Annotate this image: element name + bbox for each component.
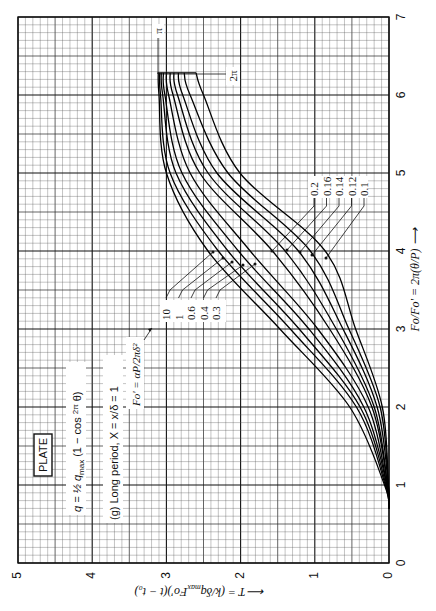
case-text: (g) Long period, X = x/δ = 1 — [108, 386, 120, 520]
curve-family — [157, 73, 389, 509]
legend-label: 0.12 — [346, 177, 358, 196]
fo-tick-label: 5 — [394, 169, 408, 176]
curve-0.4 — [163, 73, 389, 509]
legend-label: 10 — [160, 309, 172, 321]
curve-0.14 — [178, 73, 389, 509]
x-axis-label: Fo/Fo' = 2π(θ/P) ⟶ — [408, 227, 422, 332]
formula-end: θ) — [71, 392, 83, 405]
y-axis-label-main: ⟵ T = (k/δq — [201, 585, 266, 599]
t-tick-label: 3 — [159, 572, 173, 579]
y-axis-label: ⟵ T = (k/δqmaxFo')(t − t₀) — [135, 583, 266, 599]
pi-label: π — [152, 28, 164, 34]
y-axis-label-rest: Fo')(t − t₀) — [135, 585, 189, 599]
plate-title-box: PLATE — [34, 434, 52, 476]
t-tick-label: 0 — [381, 572, 395, 579]
t-tick-label: 5 — [10, 572, 24, 579]
formula-frac: 2π — [71, 404, 80, 414]
legend-label: 0.16 — [321, 176, 333, 196]
t-axis-ticks: 012345 — [10, 572, 395, 579]
rotated-chart: π 2π PLATE q = ½ qmax (1 − cos 2π θ) (g)… — [0, 0, 436, 611]
legend-label: 0.6 — [185, 306, 197, 320]
fo-tick-label: 3 — [394, 325, 408, 332]
formula-rest: (1 − cos — [71, 414, 83, 460]
formula-sub: max — [77, 460, 86, 475]
formula-lhs: q = ½ q — [71, 474, 83, 512]
fo-tick-label: 4 — [394, 247, 408, 254]
legend-label: 0.3 — [210, 306, 222, 320]
curve-0.16 — [174, 73, 389, 509]
plate-title: PLATE — [37, 438, 49, 472]
curve-0.12 — [184, 73, 389, 509]
y-axis-label-sub: max — [187, 583, 201, 592]
case-label: (g) Long period, X = x/δ = 1 — [103, 355, 123, 523]
t-tick-label: 4 — [84, 572, 98, 579]
pi-marker: π — [152, 24, 164, 74]
legend-label: 0.2 — [308, 182, 320, 196]
legend-label: 1 — [173, 315, 185, 321]
legend-label: 0.4 — [198, 306, 210, 320]
two-pi-label: 2π — [227, 70, 239, 82]
legend-group-a: 1010.60.40.3 — [160, 300, 226, 322]
fo-tick-label: 1 — [394, 481, 408, 488]
legend-label: 0.14 — [333, 176, 345, 196]
fo-axis-ticks: 01234567 — [394, 13, 408, 566]
boundary-condition-formula: q = ½ qmax (1 − cos 2π θ) — [66, 362, 86, 515]
legend-group-b: 0.20.160.140.120.1 — [308, 176, 370, 198]
leader-lines — [166, 198, 364, 298]
fo-tick-label: 2 — [394, 403, 408, 410]
fo-tick-label: 0 — [394, 559, 408, 566]
parameter-text: Fo' = αP/2πδ² — [130, 343, 142, 407]
t-tick-label: 1 — [307, 572, 321, 579]
parameter-label: Fo' = αP/2πδ² — [126, 328, 152, 409]
fo-tick-label: 6 — [394, 91, 408, 98]
curve-0.2 — [170, 73, 389, 509]
fo-tick-label: 7 — [394, 13, 408, 20]
t-tick-label: 2 — [233, 572, 247, 579]
legend-label: 0.1 — [358, 182, 370, 196]
